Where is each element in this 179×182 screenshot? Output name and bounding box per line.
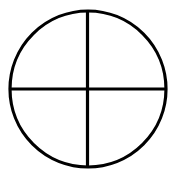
circle-cross-diagram <box>0 0 179 182</box>
diagram-canvas <box>0 0 179 182</box>
